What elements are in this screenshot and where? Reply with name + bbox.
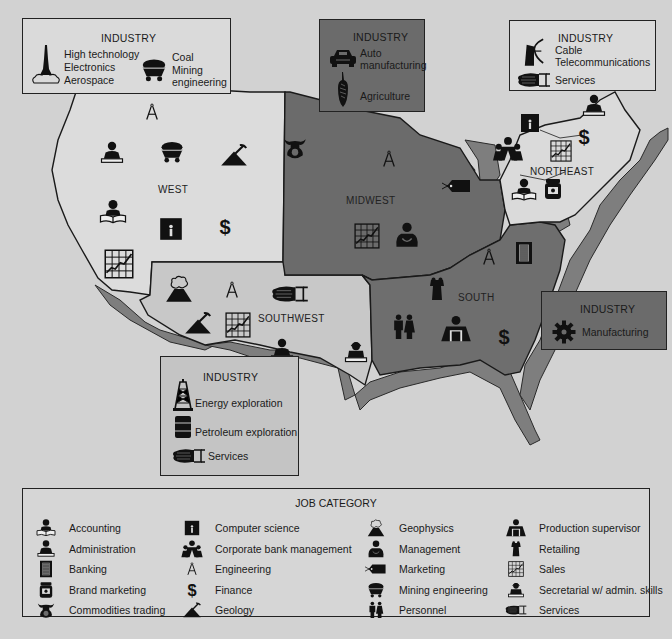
geology-icon [182, 602, 202, 618]
legend-item: Management [365, 539, 488, 560]
industry-item: manufacturing [360, 59, 427, 71]
legend-label: Management [399, 543, 460, 555]
engineering-icon [143, 102, 161, 122]
banking-icon [515, 240, 533, 266]
commodities-trading-icon [282, 136, 308, 160]
legend-title: JOB CATEGORY [23, 497, 649, 509]
engineering-icon [480, 247, 498, 267]
industry-item: Telecommunications [555, 56, 650, 68]
sales-icon [508, 561, 524, 577]
personnel-icon [392, 311, 416, 343]
engineering-icon [223, 277, 241, 303]
computer-science-icon [184, 520, 200, 536]
region-label-midwest: MIDWEST [346, 195, 395, 206]
sales-icon [354, 223, 380, 249]
finance-icon [217, 215, 233, 239]
legend-item: Production supervisor [505, 518, 663, 539]
management-icon [366, 540, 386, 558]
legend-label: Commodities trading [69, 604, 165, 616]
legend-label: Production supervisor [539, 522, 641, 534]
finance-icon [496, 325, 512, 349]
geology-icon [184, 310, 212, 336]
banking-icon [39, 560, 53, 578]
oil-derrick-icon [173, 379, 193, 411]
mining-engineering-icon [158, 139, 186, 165]
industry-title: INDUSTRY [353, 31, 408, 43]
legend-item: Administration [35, 539, 165, 560]
geology-icon [220, 143, 248, 167]
sales-icon [550, 140, 572, 162]
legend-item: Accounting [35, 518, 165, 539]
industry-box-west: INDUSTRY High technology Electronics Aer… [22, 18, 231, 94]
retailing-icon [428, 275, 446, 303]
accounting-icon [510, 178, 538, 202]
industry-item: Services [555, 74, 595, 86]
legend-item: Banking [35, 559, 165, 580]
gear-icon [552, 320, 576, 344]
industry-item: engineering [172, 76, 227, 88]
rocket-icon [31, 45, 61, 85]
management-icon [393, 222, 421, 248]
industry-box-southwest: INDUSTRY Energy exploration Petroleum ex… [160, 356, 299, 476]
legend-label: Mining engineering [399, 584, 488, 596]
legend-column-3: Geophysics Management Marketing Mining e… [365, 518, 488, 621]
job-category-legend: JOB CATEGORY Accounting Administration B… [22, 488, 650, 617]
engineering-icon [185, 560, 199, 578]
finance-icon [576, 126, 592, 148]
legend-label: Administration [69, 543, 136, 555]
sales-icon [104, 249, 134, 279]
marketing-icon [365, 562, 387, 576]
legend-column-2: Computer science Corporate bank manageme… [181, 518, 352, 621]
satellite-dish-icon [523, 37, 545, 67]
industry-item: Manufacturing [582, 326, 649, 338]
personnel-icon [368, 601, 384, 619]
legend-label: Brand marketing [69, 584, 146, 596]
legend-item: Retailing [505, 539, 663, 560]
industry-item: Petroleum exploration [195, 426, 297, 438]
retailing-icon [510, 540, 522, 558]
legend-item: Personnel [365, 600, 488, 621]
geophysics-icon [367, 519, 385, 537]
legend-item: Commodities trading [35, 600, 165, 621]
legend-label: Finance [215, 584, 252, 596]
legend-item: Secretarial w/ admin. skills [505, 580, 663, 601]
legend-label: Geology [215, 604, 254, 616]
finance-icon [185, 581, 199, 599]
legend-label: Retailing [539, 543, 580, 555]
computer-science-icon [520, 113, 540, 133]
legend-label: Marketing [399, 563, 445, 575]
administration-icon [580, 94, 608, 118]
oil-barrel-icon [173, 415, 193, 439]
legend-label: Computer science [215, 522, 300, 534]
industry-box-midwest: INDUSTRY Auto manufacturing Agriculture [319, 19, 425, 112]
sales-icon [225, 312, 251, 338]
brand-marketing-icon [39, 581, 53, 599]
legend-item: Geophysics [365, 518, 488, 539]
region-label-southwest: SOUTHWEST [258, 313, 325, 324]
engineering-icon [380, 149, 398, 169]
services-hand-icon [171, 447, 207, 465]
legend-item: Services [505, 600, 663, 621]
legend-label: Geophysics [399, 522, 454, 534]
industry-box-south: INDUSTRY Manufacturing [541, 291, 667, 350]
brand-marketing-icon [544, 178, 562, 200]
region-west [52, 62, 285, 295]
legend-item: Finance [181, 580, 352, 601]
administration-icon [35, 540, 57, 558]
region-label-west: WEST [158, 184, 188, 195]
industry-item: Auto [360, 47, 382, 59]
production-supervisor-icon [505, 519, 527, 537]
corporate-bank-management-icon [181, 540, 203, 558]
legend-item: Brand marketing [35, 580, 165, 601]
car-icon [328, 48, 358, 68]
industry-item: Services [208, 450, 248, 462]
mining-engineering-icon [366, 581, 386, 599]
legend-item: Corporate bank management [181, 539, 352, 560]
industry-title: INDUSTRY [558, 32, 613, 44]
secretarial-icon [506, 581, 526, 599]
legend-label: Corporate bank management [215, 543, 352, 555]
legend-label: Engineering [215, 563, 271, 575]
industry-item: Cable [555, 44, 582, 56]
legend-item: Mining engineering [365, 580, 488, 601]
legend-item: Marketing [365, 559, 488, 580]
